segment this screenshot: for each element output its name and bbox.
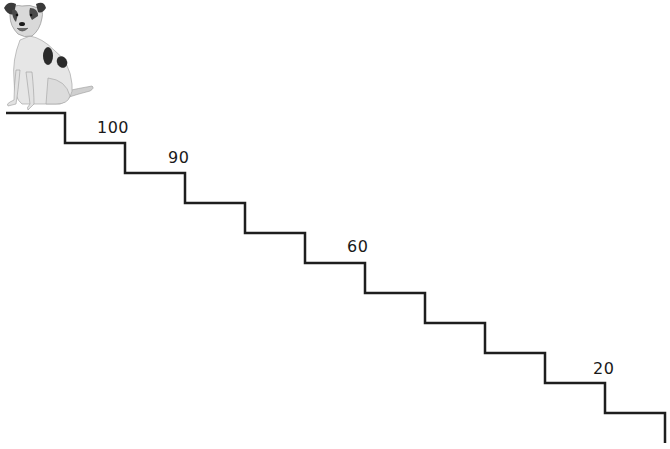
dog-illustration: [0, 0, 100, 114]
step-label: 20: [593, 359, 614, 378]
step-label: 100: [97, 118, 129, 137]
step-label: 90: [168, 148, 189, 167]
staircase-diagram: 100906020: [0, 0, 670, 449]
step-label: 60: [347, 237, 368, 256]
staircase: [0, 0, 670, 449]
